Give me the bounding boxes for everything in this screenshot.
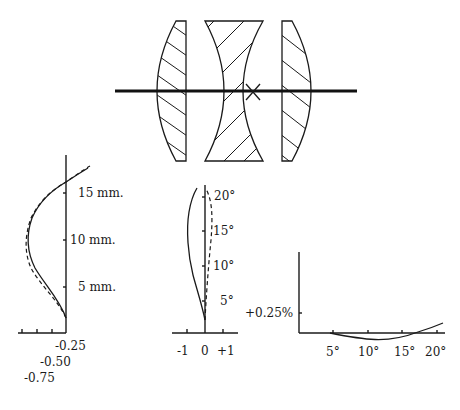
- y-tick-label: 15°: [213, 224, 234, 238]
- y-tick-label: 10 mm.: [70, 233, 116, 247]
- sagittal-curve: [188, 188, 205, 320]
- x-tick-label: -1: [177, 344, 189, 358]
- spherical-aberration-chart: 15 mm. 10 mm. 5 mm. -0.25 -0.50 -0.75: [18, 155, 124, 385]
- astigmatism-chart: 20° 15° 10° 5° -1 0 +1: [172, 185, 238, 358]
- distortion-curve: [330, 323, 443, 340]
- y-tick-label: 10°: [213, 259, 234, 273]
- x-tick-label: 10°: [358, 345, 379, 359]
- y-tick-label: 20°: [214, 189, 235, 203]
- x-tick-label: -0.25: [55, 339, 86, 353]
- middle-lens-element: [200, 15, 280, 180]
- tangential-curve: [205, 189, 212, 320]
- x-tick-label: 20°: [425, 345, 446, 359]
- x-tick-label: -0.75: [24, 371, 55, 385]
- lens-diagram-figure: 15 mm. 10 mm. 5 mm. -0.25 -0.50 -0.75 20…: [0, 0, 460, 410]
- y-tick-label: 15 mm.: [78, 186, 124, 200]
- x-tick-label: -0.50: [40, 355, 71, 369]
- y-tick-label: 5°: [220, 294, 234, 308]
- distortion-chart: +0.25% 5° 10° 15° 20°: [245, 252, 446, 359]
- x-tick-label: 15°: [394, 345, 415, 359]
- front-lens-element: [150, 10, 200, 185]
- y-tick-label: 5 mm.: [78, 280, 116, 294]
- hatching: [200, 15, 280, 180]
- rear-lens-element: [275, 5, 320, 185]
- lens-assembly: [115, 5, 357, 185]
- x-tick-label: 0: [201, 344, 209, 358]
- x-tick-label: +1: [217, 344, 235, 358]
- x-tick-label: 5°: [326, 345, 340, 359]
- y-tick-label: +0.25%: [245, 306, 293, 320]
